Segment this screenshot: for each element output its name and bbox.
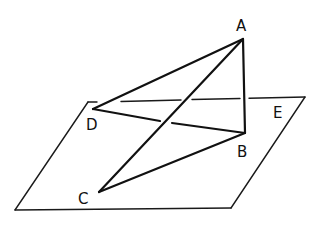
segment-cb bbox=[99, 133, 245, 192]
plane-bottom-edge bbox=[15, 208, 231, 210]
segment-db-part bbox=[93, 109, 160, 121]
diagram-canvas: A B C D E bbox=[0, 0, 317, 227]
label-c: C bbox=[78, 190, 88, 208]
plane-top-edge-part bbox=[121, 100, 181, 102]
segment-ab bbox=[243, 39, 245, 133]
plane-top-edge-part bbox=[192, 99, 240, 100]
label-d: D bbox=[86, 116, 98, 134]
label-b: B bbox=[237, 143, 247, 161]
segments bbox=[93, 39, 245, 192]
segment-ac bbox=[99, 39, 243, 192]
plane-top-edge-part bbox=[249, 97, 305, 98]
geometry-figure: A B C D E bbox=[0, 0, 317, 227]
segment-db-part bbox=[172, 123, 245, 133]
label-plane-e: E bbox=[273, 104, 282, 122]
plane-e bbox=[15, 97, 305, 210]
label-a: A bbox=[236, 17, 247, 35]
